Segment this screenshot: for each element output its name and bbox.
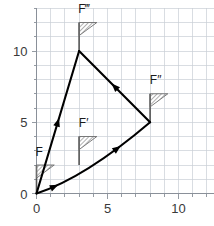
flag-label: F′ bbox=[79, 116, 89, 130]
flag-label: F‴ bbox=[78, 2, 90, 16]
vector-F2-to-F3 bbox=[79, 51, 150, 122]
x-tick-label: 10 bbox=[171, 201, 185, 216]
plot-area: 05100510FF′F″F‴ bbox=[0, 0, 214, 226]
x-tick-label: 0 bbox=[33, 201, 40, 216]
y-tick-label: 10 bbox=[13, 44, 27, 59]
y-tick-label: 5 bbox=[20, 115, 27, 130]
flag-label: F″ bbox=[150, 73, 162, 87]
x-tick-label: 5 bbox=[104, 201, 111, 216]
flag-label: F bbox=[36, 145, 43, 159]
y-tick-label: 0 bbox=[20, 187, 27, 202]
vector-diagram-figure: 05100510FF′F″F‴ bbox=[0, 0, 214, 226]
